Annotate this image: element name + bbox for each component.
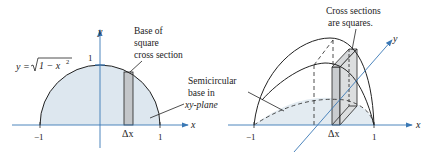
y-axis-label: y	[97, 26, 103, 37]
x-axis-label: x	[190, 119, 196, 130]
svg-text:cross section: cross section	[134, 50, 183, 60]
svg-text:base in: base in	[188, 88, 215, 98]
svg-text:2: 2	[66, 58, 69, 65]
svg-text:Base of: Base of	[134, 26, 164, 36]
left-figure: y x 1 −1 1 Δx y = 1 − x 2 Base of square…	[12, 26, 237, 148]
solid-volume-diagram: y x 1 −1 1 Δx y = 1 − x 2 Base of square…	[0, 0, 428, 154]
svg-text:are squares.: are squares.	[328, 18, 373, 28]
callout-semicircular-base: Semicircular base in xy-plane	[150, 76, 237, 118]
svg-text:Cross sections: Cross sections	[326, 6, 381, 16]
y-axis-label: y	[392, 33, 398, 44]
callout-base-of-cross-section: Base of square cross section	[130, 26, 183, 72]
svg-text:1 − x: 1 − x	[39, 60, 61, 71]
svg-text:Semicircular: Semicircular	[188, 76, 237, 86]
delta-x-label: Δx	[122, 128, 133, 139]
callout-cross-sections: Cross sections are squares.	[326, 6, 381, 50]
delta-x-label: Δx	[328, 128, 339, 139]
svg-text:xy-plane: xy-plane	[184, 100, 218, 110]
x-axis-label: x	[415, 119, 421, 130]
tick-label-left: −1	[34, 132, 44, 142]
tick-label-right: 1	[372, 132, 377, 142]
svg-text:square: square	[134, 38, 159, 48]
tick-label-right: 1	[158, 132, 163, 142]
svg-text:y =: y =	[15, 61, 30, 72]
tick-label-top: 1	[88, 53, 93, 63]
semicircle-pointer	[248, 92, 284, 111]
equation-label: y = 1 − x 2	[15, 58, 72, 72]
right-figure: y x −1 1 Δx Cross sections are squares.	[228, 6, 421, 152]
tick-label-left: −1	[246, 132, 256, 142]
cross-section-strip	[124, 72, 133, 125]
